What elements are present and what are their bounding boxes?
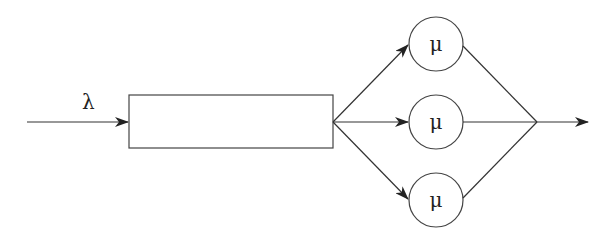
branch-arrow-bottom — [333, 122, 408, 199]
merge-lines — [463, 46, 537, 198]
arrival-rate-label: λ — [82, 90, 95, 114]
server-rate-label: μ — [430, 32, 443, 56]
server-rate-label: μ — [430, 188, 443, 212]
server-middle: μ — [409, 95, 463, 149]
queueing-diagram: λ μ μ μ — [0, 0, 610, 235]
queue-buffer — [129, 95, 333, 148]
server-bottom: μ — [409, 173, 463, 227]
server-rate-label: μ — [430, 110, 443, 134]
branch-arrow-top — [333, 45, 408, 122]
branch-arrows — [333, 45, 408, 199]
server-top: μ — [409, 17, 463, 71]
